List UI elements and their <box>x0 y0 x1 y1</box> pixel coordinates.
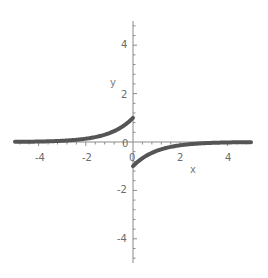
y-tick-label-neg4: -4 <box>117 233 127 244</box>
y-tick-label-neg2: -2 <box>117 184 127 195</box>
x-tick-label-2: 2 <box>177 152 183 163</box>
x-tick-label-neg4: -4 <box>35 152 45 163</box>
curve-right-branch <box>133 142 251 166</box>
y-tick-label-origin: 0 <box>122 138 128 149</box>
x-tick-label-neg2: -2 <box>82 152 92 163</box>
y-tick-label-4: 4 <box>121 39 127 50</box>
plot-area: -4 -2 0 2 4 0 4 2 -2 -4 x y <box>0 0 268 278</box>
x-tick-label-origin: 0 <box>129 152 135 163</box>
y-tick-label-2: 2 <box>121 89 127 100</box>
x-tick-label-4: 4 <box>225 152 231 163</box>
curve-left-branch <box>15 118 133 142</box>
x-axis-label: x <box>190 164 196 175</box>
y-axis-label: y <box>110 77 116 88</box>
